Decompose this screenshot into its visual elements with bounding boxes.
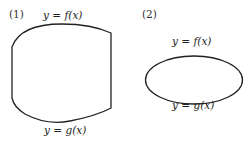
figure-1-number: (1) [9, 9, 24, 20]
figure-1-bottom-label: y = g(x) [44, 125, 86, 136]
figure-1-top-label: y = f(x) [43, 10, 82, 21]
region-1-outline [12, 24, 111, 122]
figure-2-top-label: y = f(x) [172, 36, 211, 47]
diagram-canvas [0, 0, 249, 143]
figure-2-number: (2) [142, 9, 157, 20]
region-2-ellipse [146, 56, 243, 104]
figure-2-bottom-label: y = g(x) [172, 100, 214, 111]
